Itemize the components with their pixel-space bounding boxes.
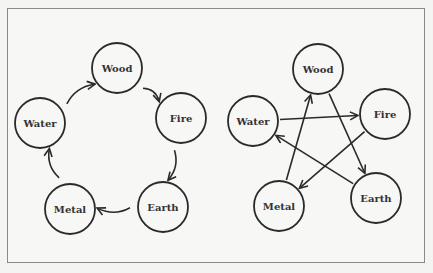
node-earth: Earth bbox=[138, 182, 188, 232]
arrow-fire-to-metal bbox=[300, 132, 364, 188]
arrow-metal-to-water bbox=[49, 149, 59, 177]
node-earth-label: Earth bbox=[360, 193, 392, 204]
node-water-label: Water bbox=[235, 116, 270, 127]
arrow-wood-to-earth bbox=[329, 94, 364, 173]
arrow-metal-to-wood bbox=[286, 96, 310, 180]
generating-cycle-diagram: WaterWoodFireEarthMetal bbox=[15, 43, 206, 234]
arrow-water-to-fire bbox=[280, 115, 357, 119]
node-water: Water bbox=[228, 96, 278, 146]
node-metal-label: Metal bbox=[54, 204, 87, 215]
arrow-water-to-wood bbox=[67, 84, 94, 104]
node-wood: Wood bbox=[293, 44, 343, 94]
arrow-wood-to-fire bbox=[143, 88, 159, 100]
node-earth-label: Earth bbox=[147, 202, 179, 213]
node-fire-label: Fire bbox=[170, 113, 193, 124]
node-water-label: Water bbox=[22, 118, 57, 129]
controlling-cycle-diagram: WoodWaterFireMetalEarth bbox=[228, 44, 410, 231]
node-metal: Metal bbox=[254, 181, 304, 231]
arrow-fire-to-earth bbox=[169, 150, 177, 179]
node-fire: Fire bbox=[360, 89, 410, 139]
node-water: Water bbox=[15, 98, 65, 148]
node-wood: Wood bbox=[92, 43, 142, 93]
node-fire: Fire bbox=[156, 93, 206, 143]
figure-page: WaterWoodFireEarthMetal WoodWaterFireMet… bbox=[0, 0, 433, 273]
node-earth: Earth bbox=[351, 173, 401, 223]
node-fire-label: Fire bbox=[374, 109, 397, 120]
node-metal-label: Metal bbox=[263, 201, 296, 212]
node-wood-label: Wood bbox=[302, 64, 334, 75]
five-elements-diagram: WaterWoodFireEarthMetal WoodWaterFireMet… bbox=[0, 0, 433, 273]
node-metal: Metal bbox=[45, 184, 95, 234]
arrow-earth-to-metal bbox=[98, 208, 130, 213]
node-wood-label: Wood bbox=[101, 63, 133, 74]
